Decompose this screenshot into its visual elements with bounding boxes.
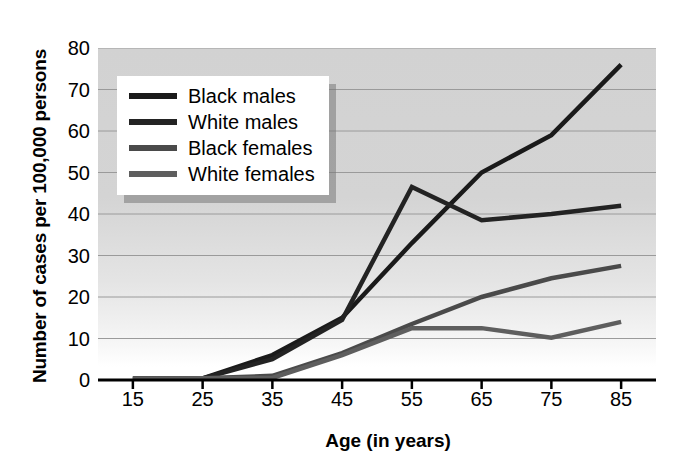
legend-label: White males <box>188 112 298 132</box>
legend-label: White females <box>188 164 315 184</box>
x-tick-label: 45 <box>317 388 367 411</box>
legend-item: Black males <box>129 83 315 109</box>
line-chart: Number of cases per 100,000 persons 0102… <box>0 0 676 463</box>
y-tick-label: 10 <box>46 327 90 350</box>
legend-label: Black females <box>188 138 313 158</box>
legend-item: White females <box>129 161 315 187</box>
series-line <box>133 322 621 379</box>
legend-swatch-icon <box>129 145 177 151</box>
x-tick-label: 65 <box>457 388 507 411</box>
x-tick-label: 25 <box>178 388 228 411</box>
y-axis-tick-labels: 01020304050607080 <box>22 0 90 463</box>
x-axis-title: Age (in years) <box>120 430 656 452</box>
legend-swatch-icon <box>129 171 177 177</box>
legend-label: Black males <box>188 86 296 106</box>
y-tick-label: 80 <box>46 37 90 60</box>
x-tick-label: 35 <box>247 388 297 411</box>
legend-item: White males <box>129 109 315 135</box>
x-tick-label: 85 <box>596 388 646 411</box>
x-tick-label: 15 <box>108 388 158 411</box>
y-tick-label: 60 <box>46 120 90 143</box>
y-tick-label: 0 <box>46 369 90 392</box>
legend-swatch-icon <box>129 93 177 99</box>
y-tick-label: 30 <box>46 244 90 267</box>
x-tick-label: 75 <box>526 388 576 411</box>
legend: Black malesWhite malesBlack femalesWhite… <box>117 76 329 195</box>
legend-swatch-icon <box>129 119 177 125</box>
y-tick-label: 20 <box>46 286 90 309</box>
legend-item: Black females <box>129 135 315 161</box>
y-tick-label: 70 <box>46 78 90 101</box>
y-tick-label: 50 <box>46 161 90 184</box>
x-tick-label: 55 <box>387 388 437 411</box>
y-tick-label: 40 <box>46 203 90 226</box>
